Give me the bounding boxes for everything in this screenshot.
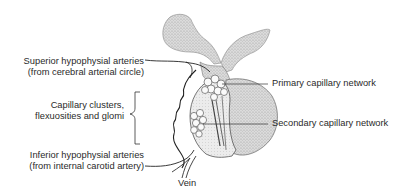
label-inferior-hypophysial-arteries: Inferior hypophysial arteries (from inte…	[20, 150, 144, 172]
hypothalamus-region	[163, 14, 221, 64]
label-vein: Vein	[178, 178, 196, 189]
label-capillary-clusters: Capillary clusters, flexuosities and glo…	[20, 100, 124, 122]
infundibulum-arm	[221, 29, 270, 72]
capillary-clusters-line1: Capillary clusters,	[20, 100, 124, 111]
brace	[130, 92, 140, 144]
superior-arteries-line2: (from cerebral arterial circle)	[20, 67, 144, 78]
label-primary-capillary-network: Primary capillary network	[272, 78, 376, 89]
superior-arteries-line1: Superior hypophysial arteries	[20, 56, 144, 67]
inferior-arteries-line1: Inferior hypophysial arteries	[20, 150, 144, 161]
inferior-arteries-line2: (from internal carotid artery)	[20, 161, 144, 172]
label-superior-hypophysial-arteries: Superior hypophysial arteries (from cere…	[20, 56, 144, 78]
label-secondary-capillary-network: Secondary capillary network	[272, 118, 388, 129]
capillary-clusters-line2: flexuosities and glomi	[20, 111, 124, 122]
